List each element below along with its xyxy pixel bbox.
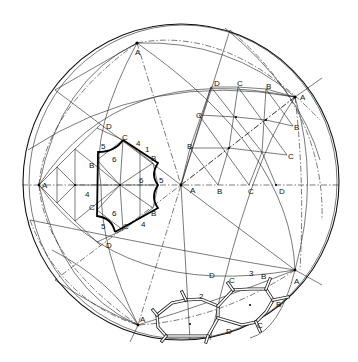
right-label: B (266, 82, 271, 91)
molecule-label: B (276, 300, 281, 309)
vertex-labels: A A A A A A D C 4 1 B 5 6 B 6 5 4 C 6 B … (42, 48, 306, 336)
molecule-label: 2 (199, 292, 204, 301)
left-label: 6 (112, 209, 117, 218)
left-label: C (122, 133, 128, 142)
label-A-right-top: A (300, 93, 306, 102)
left-label: 5 (101, 142, 106, 151)
left-label: 1 (145, 145, 150, 154)
left-label: 4 (141, 220, 146, 229)
left-label: D (106, 122, 112, 131)
left-label: 6 (112, 155, 117, 164)
right-label: C (248, 187, 254, 196)
label-A-center: A (190, 186, 196, 195)
left-label: D (106, 241, 112, 250)
sphere-lattice-diagram: A A A A A A D C 4 1 B 5 6 B 6 5 4 C 6 B … (0, 0, 358, 362)
right-label: C (288, 152, 294, 161)
left-label: B (151, 154, 156, 163)
molecule-label: D (209, 271, 215, 280)
molecule-model (137, 269, 297, 342)
left-label: 4 (85, 190, 90, 199)
left-label: 6 (139, 176, 144, 185)
left-label: 5 (101, 222, 106, 231)
molecule-label: B (261, 272, 266, 281)
molecule-label: C (229, 276, 235, 285)
left-label: C (123, 222, 129, 231)
label-A-top: A (135, 48, 141, 57)
left-label: C (89, 203, 95, 212)
right-label: B (217, 187, 222, 196)
molecule-label: C (257, 321, 263, 330)
right-label: B (187, 142, 192, 151)
molecule-label: 3 (249, 269, 254, 278)
left-label: B (89, 161, 94, 170)
left-label: 5 (159, 176, 164, 185)
molecule-label: D (226, 327, 232, 336)
left-label: 4 (136, 139, 141, 148)
right-label: D (214, 79, 220, 88)
right-label: C (237, 79, 243, 88)
right-label: C (196, 111, 202, 120)
right-label: B (294, 123, 299, 132)
right-lattice-patch (180, 87, 296, 187)
label-A-bottom: A (140, 315, 146, 324)
label-A-right-bottom: A (294, 277, 300, 286)
left-label: B (151, 209, 156, 218)
right-label: D (279, 187, 285, 196)
label-A-left: A (42, 181, 48, 190)
